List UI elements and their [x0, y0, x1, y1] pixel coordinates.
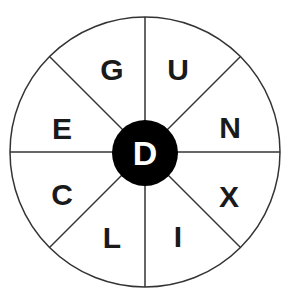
segment-letter-right-upper[interactable]: N — [219, 111, 241, 144]
segment-letter-left-lower[interactable]: C — [51, 178, 73, 211]
segment-letter-left-upper[interactable]: E — [52, 112, 72, 145]
segment-letter-right-lower[interactable]: X — [219, 180, 239, 213]
segment-letter-top-right[interactable]: U — [167, 53, 189, 86]
segment-letter-top-left[interactable]: G — [100, 53, 123, 86]
segment-letter-bottom-left[interactable]: L — [103, 221, 121, 254]
center-letter[interactable]: D — [133, 134, 158, 172]
word-wheel: U N X I L C E G D — [0, 0, 291, 297]
segment-letter-bottom-right[interactable]: I — [174, 220, 182, 253]
